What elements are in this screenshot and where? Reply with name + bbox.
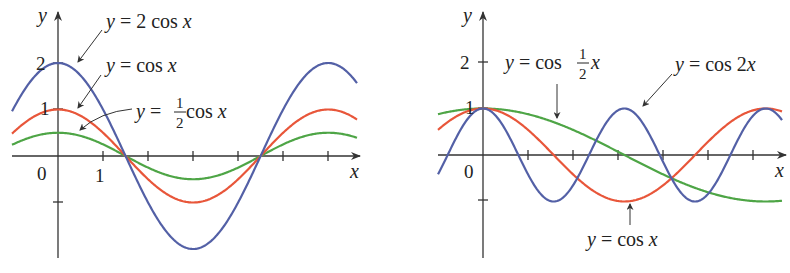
svg-text:y = cos: y = cos bbox=[503, 51, 562, 74]
label-cos-half-x: y = cos 1 2 x bbox=[503, 46, 600, 82]
label-cos-x-right: y = cos x bbox=[585, 228, 658, 251]
left-x-axis-label: x bbox=[349, 160, 359, 182]
right-tick-0: 0 bbox=[464, 161, 474, 182]
pointer-cos-x-left bbox=[78, 75, 101, 108]
label-2-cos-x: y = 2 cos x bbox=[104, 10, 192, 33]
svg-text:2: 2 bbox=[176, 115, 184, 131]
right-x-axis-label: x bbox=[774, 159, 784, 181]
right-tick-y1: 1 bbox=[465, 97, 475, 118]
right-tick-y2: 2 bbox=[460, 52, 470, 73]
pointer-cos-2x bbox=[643, 74, 672, 106]
left-tick-0: 0 bbox=[37, 163, 47, 184]
label-cos-2x: y = cos 2x bbox=[673, 53, 756, 76]
svg-text:cos x: cos x bbox=[186, 100, 227, 122]
svg-text:1: 1 bbox=[176, 95, 184, 111]
label-cos-x-left: y = cos x bbox=[104, 54, 177, 77]
pointer-2-cos-x bbox=[78, 30, 102, 62]
svg-text:y =: y = bbox=[134, 100, 161, 123]
svg-text:1: 1 bbox=[579, 46, 587, 62]
svg-text:x: x bbox=[590, 51, 600, 73]
label-half-cos-x: y = 1 2 cos x bbox=[134, 95, 227, 131]
left-tick-y2: 2 bbox=[36, 53, 46, 74]
left-y-axis-label: y bbox=[36, 4, 47, 27]
left-tick-y1: 1 bbox=[40, 98, 50, 119]
left-tick-x1: 1 bbox=[95, 165, 105, 186]
right-y-axis-label: y bbox=[461, 4, 472, 27]
svg-text:2: 2 bbox=[579, 66, 587, 82]
figure: y x 0 1 2 1 y = 2 cos x y = cos x y = 1 … bbox=[0, 0, 790, 273]
right-chart: y x 0 2 1 y = cos 1 2 x y = cos 2x y = c… bbox=[438, 4, 786, 258]
left-chart: y x 0 1 2 1 y = 2 cos x y = cos x y = 1 … bbox=[12, 4, 360, 258]
